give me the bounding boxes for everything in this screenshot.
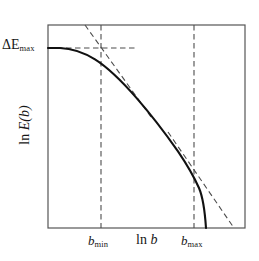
y-tick-label-delta-e-max: ΔEmax (2, 38, 35, 53)
delta-e-max-subscript: max (20, 43, 35, 53)
tangent-at-bmax-dashed-line (168, 132, 234, 228)
b-min-subscript: min (95, 239, 109, 249)
y-axis-title-italic: E(b) (17, 105, 32, 130)
curve-ln-E-of-b (48, 48, 206, 228)
plot-canvas (0, 0, 259, 261)
x-axis-title-upright: ln (136, 232, 150, 247)
delta-e-max-main: ΔE (2, 37, 20, 52)
x-axis-title-italic: b (150, 232, 157, 247)
x-tick-label-b-max: bmax (181, 234, 203, 249)
y-axis-title-upright: ln (17, 130, 32, 144)
plot-frame (48, 25, 245, 228)
b-max-subscript: max (188, 239, 203, 249)
figure-root: ΔEmax ln E(b) bmin ln b bmax (0, 0, 259, 261)
x-axis-title: ln b (136, 233, 157, 247)
x-tick-label-b-min: bmin (88, 234, 108, 249)
y-axis-title: ln E(b) (18, 87, 32, 163)
